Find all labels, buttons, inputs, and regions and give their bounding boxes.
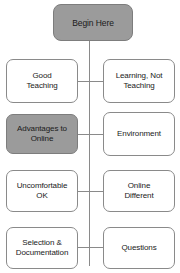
spine-segment-lower-mid <box>89 134 90 191</box>
node-online-different-label: Online Different <box>124 181 153 201</box>
node-questions[interactable]: Questions <box>103 227 175 269</box>
node-environment-label: Environment <box>117 129 161 139</box>
node-online-different[interactable]: Online Different <box>103 170 175 212</box>
connector-row-4 <box>78 247 103 248</box>
node-environment[interactable]: Environment <box>103 112 175 156</box>
node-learning-not-teaching-label: Learning, Not Teaching <box>116 71 163 91</box>
node-learning-not-teaching[interactable]: Learning, Not Teaching <box>103 59 175 103</box>
node-advantages-to-online-label: Advantages to Online <box>17 124 67 144</box>
node-uncomfortable-ok-label: Uncomfortable OK <box>17 181 68 201</box>
spine-segment-upper-mid <box>89 81 90 134</box>
node-selection-documentation-label: Selection & Documentation <box>16 238 69 258</box>
connector-row-3 <box>78 191 103 192</box>
node-questions-label: Questions <box>121 243 156 253</box>
flowchart-canvas: Begin Here Good Teaching Learning, Not T… <box>0 0 180 273</box>
connector-row-1 <box>78 81 103 82</box>
spine-segment-tail <box>89 247 90 266</box>
node-selection-documentation[interactable]: Selection & Documentation <box>6 227 78 269</box>
spine-segment-top <box>89 41 90 81</box>
spine-segment-bottom <box>89 191 90 247</box>
node-begin-here[interactable]: Begin Here <box>53 4 133 41</box>
node-begin-here-label: Begin Here <box>72 18 114 28</box>
node-good-teaching[interactable]: Good Teaching <box>6 59 78 103</box>
connector-row-2 <box>78 134 103 135</box>
node-good-teaching-label: Good Teaching <box>26 71 57 91</box>
node-advantages-to-online[interactable]: Advantages to Online <box>6 114 78 154</box>
node-uncomfortable-ok[interactable]: Uncomfortable OK <box>6 170 78 212</box>
